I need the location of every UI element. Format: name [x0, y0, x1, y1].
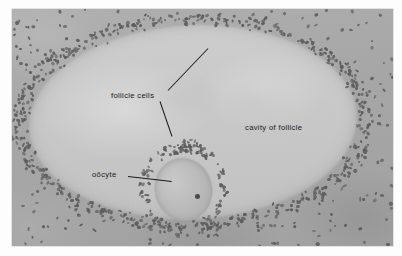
cell-nucleus: [51, 68, 54, 72]
cell-nucleus: [350, 79, 353, 83]
cell-nucleus: [319, 52, 324, 56]
cell-nucleus: [273, 24, 277, 28]
cell-nucleus: [17, 93, 20, 97]
cell-nucleus: [358, 103, 361, 105]
cell-nucleus: [15, 130, 18, 133]
cell-nucleus: [264, 30, 267, 34]
cell-nucleus: [200, 17, 203, 21]
cell-nucleus: [149, 228, 154, 231]
cell-nucleus: [18, 48, 21, 50]
cell-nucleus: [222, 168, 224, 172]
cell-nucleus: [232, 15, 236, 18]
cell-nucleus: [30, 91, 34, 95]
label-oocyte: oōcyte: [92, 171, 116, 179]
cell-nucleus: [195, 142, 197, 145]
cell-nucleus: [390, 57, 393, 62]
cell-nucleus: [33, 65, 36, 68]
oocyte-nucleolus: [195, 194, 200, 199]
cell-nucleus: [69, 198, 73, 201]
cell-nucleus: [388, 201, 393, 206]
cell-nucleus: [194, 224, 196, 228]
cell-nucleus: [376, 160, 379, 164]
cell-nucleus: [356, 156, 359, 160]
cell-nucleus: [346, 82, 349, 85]
cell-nucleus: [29, 51, 32, 54]
cell-nucleus: [285, 209, 289, 211]
cell-nucleus: [65, 56, 69, 58]
cell-nucleus: [349, 28, 353, 31]
label-follicle-cells: follicle cells: [111, 92, 154, 100]
cell-nucleus: [32, 74, 35, 77]
label-cavity-of-follicle: cavity of follicle: [245, 124, 302, 132]
cell-nucleus: [189, 139, 193, 141]
cell-nucleus: [367, 89, 370, 92]
cell-nucleus: [127, 221, 129, 224]
cell-nucleus: [58, 24, 61, 27]
cell-nucleus: [64, 37, 68, 41]
cell-nucleus: [212, 225, 214, 228]
cell-nucleus: [297, 244, 300, 246]
cell-nucleus: [99, 210, 102, 214]
cell-nucleus: [156, 216, 158, 219]
cell-nucleus: [75, 38, 80, 42]
cell-nucleus: [152, 24, 155, 27]
cell-nucleus: [184, 21, 188, 24]
cell-nucleus: [386, 124, 389, 127]
cell-nucleus: [13, 108, 16, 111]
cell-nucleus: [163, 19, 166, 22]
cell-nucleus: [23, 146, 26, 151]
cell-nucleus: [355, 123, 358, 127]
cell-nucleus: [42, 168, 45, 172]
cell-nucleus: [98, 204, 101, 207]
cell-nucleus: [135, 21, 139, 25]
cell-nucleus: [178, 227, 181, 231]
cell-nucleus: [23, 136, 25, 139]
cell-nucleus: [46, 176, 50, 180]
cell-nucleus: [91, 43, 93, 46]
cell-nucleus: [318, 202, 321, 206]
cell-nucleus: [139, 219, 143, 222]
cell-nucleus: [363, 150, 366, 154]
cell-nucleus: [76, 202, 78, 205]
micrograph-plate: [12, 9, 393, 246]
figure-container: follicle cells cavity of follicle oōcyte: [0, 0, 402, 256]
cell-nucleus: [229, 217, 233, 220]
cell-nucleus: [26, 141, 29, 144]
cell-nucleus: [312, 230, 316, 232]
cell-nucleus: [245, 20, 248, 23]
cell-nucleus: [56, 192, 59, 195]
cell-nucleus: [358, 109, 361, 112]
cell-nucleus: [362, 198, 365, 201]
cell-nucleus: [386, 243, 390, 246]
